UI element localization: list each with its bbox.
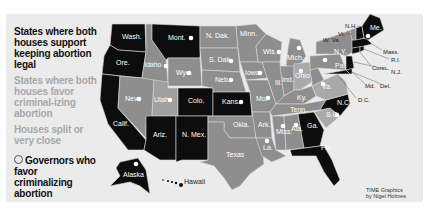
label-texas: Texas: [226, 151, 245, 158]
label-me: Me.: [370, 24, 382, 31]
label-md: Md.: [365, 83, 375, 89]
label-kans: Kans.: [222, 98, 240, 105]
state-ri[interactable]: [360, 46, 364, 52]
label-ill: Ill.: [275, 79, 282, 86]
label-dc: D.C.: [358, 97, 370, 103]
label-sdak: S. Dak.: [209, 56, 232, 63]
label-nmex: N. Mex.: [182, 131, 206, 138]
label-va: Va.: [322, 83, 332, 90]
label-colo: Colo.: [188, 97, 204, 104]
label-wis: Wis.: [263, 48, 277, 55]
label-nj: N.J.: [391, 69, 402, 75]
label-ohio: Ohio: [295, 72, 310, 79]
state-nmex[interactable]: [176, 116, 208, 162]
label-ore: Ore.: [116, 59, 130, 66]
state-fla[interactable]: [290, 146, 340, 186]
label-okla: Okla.: [233, 121, 249, 128]
label-ariz: Ariz.: [153, 131, 167, 138]
label-calif: Calif.: [113, 120, 129, 127]
label-sc: S.C.: [326, 111, 340, 118]
label-ky: Ky.: [297, 94, 307, 102]
label-vt: Vt.: [338, 31, 346, 37]
state-nj[interactable]: [346, 56, 354, 70]
label-pa: Pa.: [335, 62, 346, 69]
label-ind: Ind.: [282, 76, 294, 83]
label-miss: Miss.: [276, 128, 292, 135]
state-md[interactable]: [324, 70, 350, 74]
label-mont: Mont.: [168, 34, 186, 41]
label-iowa: Iowa: [245, 69, 260, 76]
label-ndak: N. Dak.: [206, 32, 229, 39]
label-nev: Nev.: [125, 95, 139, 102]
label-minn: Minn.: [240, 30, 257, 37]
label-mo: Mo.: [256, 95, 268, 102]
label-utah: Utah: [154, 96, 169, 103]
label-nc: N.C.: [337, 99, 351, 106]
credit: TIME Graphics by Nigel Holmes: [366, 187, 406, 199]
label-fla: Fla.: [321, 144, 333, 151]
label-nh: N.H.: [345, 23, 357, 29]
label-wyo: Wyo.: [176, 69, 192, 77]
label-mich: Mich.: [287, 54, 304, 61]
label-idaho: Idaho: [144, 61, 162, 68]
label-ri: R.I.: [391, 57, 401, 63]
credit-line2: by Nigel Holmes: [366, 193, 406, 199]
label-tenn: Tenn.: [290, 106, 307, 113]
us-map: Wash. Ore. Calif. Idaho Nev. Mont. Wyo. …: [0, 0, 429, 216]
label-ark: Ark.: [258, 121, 271, 128]
label-wva: W. Va.: [323, 37, 341, 43]
label-ny: N.Y.: [334, 48, 347, 55]
label-mass: Mass.: [383, 49, 399, 55]
label-la: La.: [263, 144, 273, 151]
label-neb: Neb.: [215, 76, 230, 83]
label-alaska: Alaska: [123, 171, 144, 178]
label-del: Del.: [380, 83, 391, 89]
label-wash: Wash.: [122, 33, 142, 40]
hawaii-islands[interactable]: [162, 179, 183, 187]
state-ariz[interactable]: [144, 116, 176, 160]
label-hawaii: Hawaii: [184, 178, 205, 185]
label-ala: Ala.: [291, 125, 303, 132]
label-ga: Ga.: [307, 122, 318, 129]
